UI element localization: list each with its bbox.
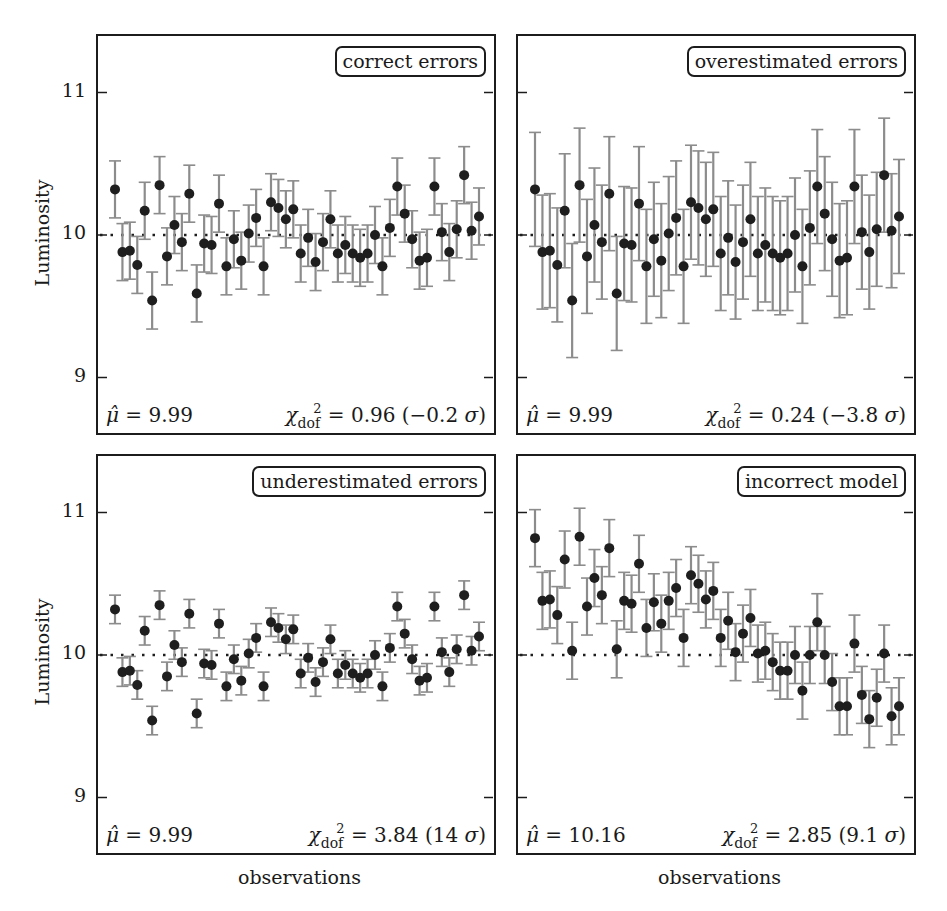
data-point (459, 590, 469, 600)
ytick-10-top: 10 (46, 221, 86, 243)
data-point (437, 227, 447, 237)
data-point (437, 647, 447, 657)
data-point (288, 624, 298, 634)
data-point (812, 182, 822, 192)
mu-hat-annotation: μ̂ = 9.99 (106, 403, 193, 427)
data-point (429, 602, 439, 612)
data-point (857, 690, 867, 700)
data-point (567, 646, 577, 656)
chi2-annotation: χdof2 = 0.96 (−0.2 σ) (285, 403, 486, 427)
data-point (132, 680, 142, 690)
data-point (385, 643, 395, 653)
data-point (723, 233, 733, 243)
data-point (805, 650, 815, 660)
data-point (474, 211, 484, 221)
data-point (560, 206, 570, 216)
legend-box: overestimated errors (687, 46, 906, 77)
data-point (649, 234, 659, 244)
data-point (649, 597, 659, 607)
data-point (849, 182, 859, 192)
data-point (340, 240, 350, 250)
mu-hat-annotation: μ̂ = 10.16 (526, 823, 626, 847)
data-point (333, 249, 343, 259)
data-point (400, 629, 410, 639)
data-point (634, 559, 644, 569)
data-point (236, 676, 246, 686)
data-point (567, 296, 577, 306)
data-point (318, 237, 328, 247)
data-point (664, 229, 674, 239)
data-point (229, 654, 239, 664)
plot-area (98, 456, 498, 857)
data-point (392, 182, 402, 192)
data-point (693, 203, 703, 213)
mu-value: = 10.16 (545, 823, 625, 847)
data-point (244, 229, 254, 239)
data-point (575, 180, 585, 190)
data-point (207, 660, 217, 670)
ytick-10-bottom: 10 (46, 641, 86, 663)
data-point (627, 240, 637, 250)
ytick-9-top: 9 (46, 364, 86, 386)
data-point (849, 639, 859, 649)
data-point (693, 579, 703, 589)
data-point (582, 251, 592, 261)
chi2-value: = 3.84 (14 (351, 823, 465, 847)
data-point (701, 214, 711, 224)
data-point (229, 234, 239, 244)
data-point (333, 669, 343, 679)
data-point (827, 677, 837, 687)
data-point (303, 233, 313, 243)
paren-close: ) (898, 823, 906, 847)
panel-overestimated-errors: overestimated errors μ̂ = 9.99 χdof2 = 0… (516, 34, 916, 435)
paren-close: ) (478, 823, 486, 847)
data-point (589, 220, 599, 230)
data-point (872, 693, 882, 703)
chi2-value: = 0.96 (−0.2 (328, 403, 465, 427)
data-point (656, 256, 666, 266)
data-point (708, 204, 718, 214)
data-point (827, 234, 837, 244)
data-point (288, 204, 298, 214)
data-point (597, 590, 607, 600)
data-point (177, 657, 187, 667)
data-point (273, 203, 283, 213)
data-point (385, 223, 395, 233)
data-point (723, 616, 733, 626)
legend-box: incorrect model (737, 466, 906, 497)
data-point (155, 180, 165, 190)
plot-area (518, 36, 918, 437)
data-point (162, 251, 172, 261)
x-axis-label-left: observations (238, 866, 361, 888)
data-point (671, 583, 681, 593)
data-point (132, 260, 142, 270)
data-point (214, 619, 224, 629)
plot-area (98, 36, 498, 437)
data-point (760, 240, 770, 250)
legend-box: underestimated errors (252, 466, 486, 497)
data-point (251, 213, 261, 223)
data-point (221, 261, 231, 271)
data-point (864, 714, 874, 724)
chi2-annotation: χdof2 = 2.85 (9.1 σ) (722, 823, 906, 847)
data-point (575, 532, 585, 542)
data-point (745, 214, 755, 224)
data-point (400, 209, 410, 219)
data-point (325, 214, 335, 224)
data-point (716, 249, 726, 259)
data-point (612, 644, 622, 654)
data-point (147, 716, 157, 726)
data-point (311, 677, 321, 687)
data-point (422, 253, 432, 263)
data-point (552, 260, 562, 270)
data-point (679, 261, 689, 271)
mu-value: = 9.99 (125, 823, 193, 847)
data-point (745, 613, 755, 623)
data-point (444, 247, 454, 257)
data-point (110, 184, 120, 194)
data-point (125, 666, 135, 676)
data-point (545, 246, 555, 256)
data-point (753, 249, 763, 259)
data-point (169, 220, 179, 230)
data-point (864, 247, 874, 257)
